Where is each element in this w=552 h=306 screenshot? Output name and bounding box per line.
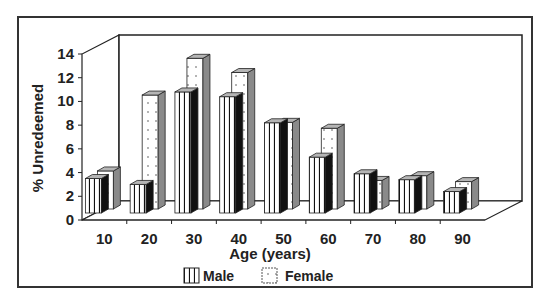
y-axis: 02468101214: [57, 45, 82, 228]
y-tick-label: 0: [66, 211, 74, 228]
bar-male: [354, 170, 377, 213]
x-tick-label: 70: [365, 230, 382, 247]
x-tick-label: 90: [454, 230, 471, 247]
x-tick-label: 30: [186, 230, 203, 247]
y-tick-label: 14: [57, 45, 74, 62]
bar-chart: 02468101214 102030405060708090 % Unredee…: [0, 0, 552, 306]
x-tick-label: 10: [96, 230, 113, 247]
legend-label-female: Female: [285, 268, 333, 284]
legend-item-male: Male: [184, 268, 234, 284]
bar-male: [130, 180, 153, 213]
x-axis: 102030405060708090: [82, 220, 485, 247]
y-tick-label: 8: [66, 116, 74, 133]
bar-male: [175, 88, 198, 213]
bar-male: [265, 119, 288, 213]
x-tick-label: 60: [320, 230, 337, 247]
bar-male: [85, 175, 108, 214]
legend-label-male: Male: [203, 268, 234, 284]
legend-item-female: Female: [262, 268, 333, 284]
x-tick-label: 80: [409, 230, 426, 247]
bar-male: [399, 176, 422, 213]
y-tick-label: 2: [66, 187, 74, 204]
y-tick-label: 4: [66, 164, 75, 181]
bar-male: [309, 153, 332, 213]
y-tick-label: 6: [66, 140, 74, 157]
y-axis-title: % Unredeemed: [29, 84, 46, 192]
y-tick-label: 10: [57, 92, 74, 109]
bar-male: [444, 188, 467, 213]
bar-male: [220, 93, 243, 213]
y-tick-label: 12: [57, 69, 74, 86]
legend: MaleFemale: [184, 268, 333, 284]
x-axis-title: Age (years): [229, 245, 311, 262]
x-tick-label: 20: [141, 230, 158, 247]
